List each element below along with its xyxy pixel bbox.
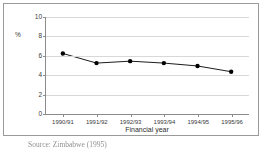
y-tickmark-10	[43, 17, 46, 18]
y-tick-label-8: 8	[38, 33, 42, 40]
y-tick-label-2: 2	[38, 91, 42, 98]
chart-frame: % 02468101990/911991/921992/931993/94199…	[3, 3, 259, 136]
y-axis-title: %	[15, 32, 21, 39]
gridline-y-4	[46, 75, 249, 76]
x-tick-label-1994-95: 1994/95	[187, 119, 209, 125]
x-tick-label-1990-91: 1990/91	[52, 119, 74, 125]
x-tick-label-1992-93: 1992/93	[120, 119, 142, 125]
gridline-y-6	[46, 56, 249, 57]
y-tickmark-6	[43, 56, 46, 57]
data-point-1991-92	[94, 61, 98, 65]
x-tickmark-4	[198, 114, 199, 117]
source-note: Source: Zimbabwe (1995)	[28, 141, 107, 149]
y-tickmark-4	[43, 75, 46, 76]
line-series	[46, 17, 249, 114]
y-tickmark-0	[43, 114, 46, 115]
gridline-y-2	[46, 95, 249, 96]
data-point-1993-94	[162, 61, 166, 65]
x-tick-label-1991-92: 1991/92	[86, 119, 108, 125]
y-tick-label-0: 0	[38, 111, 42, 118]
y-tick-label-6: 6	[38, 53, 42, 60]
y-tickmark-8	[43, 36, 46, 37]
y-tick-label-4: 4	[38, 72, 42, 79]
data-point-1995-96	[229, 70, 233, 74]
x-tickmark-1	[97, 114, 98, 117]
x-tickmark-3	[164, 114, 165, 117]
figure-container: % 02468101990/911991/921992/931993/94199…	[0, 0, 264, 154]
x-tickmark-2	[131, 114, 132, 117]
gridline-y-10	[46, 17, 249, 18]
y-tickmark-2	[43, 95, 46, 96]
data-point-1992-93	[128, 59, 132, 63]
x-tick-label-1993-94: 1993/94	[154, 119, 176, 125]
data-point-1994-95	[195, 64, 199, 68]
y-tick-label-10: 10	[35, 14, 42, 21]
x-axis-title: Financial year	[45, 126, 249, 133]
x-tick-label-1995-96: 1995/96	[221, 119, 243, 125]
x-tickmark-5	[232, 114, 233, 117]
x-tickmark-0	[63, 114, 64, 117]
gridline-y-8	[46, 36, 249, 37]
plot-area: 02468101990/911991/921992/931993/941994/…	[45, 17, 249, 115]
